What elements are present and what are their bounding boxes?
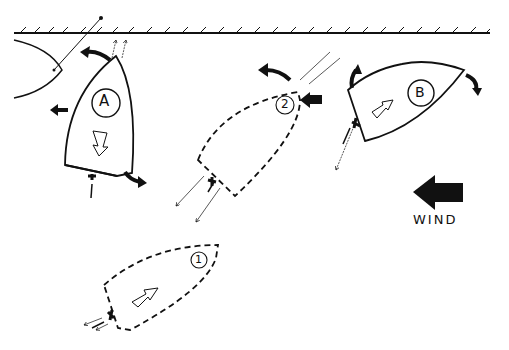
diagram-canvas xyxy=(0,0,509,350)
boat-a-label: A xyxy=(99,92,109,110)
boat-b xyxy=(336,62,482,170)
dock xyxy=(14,27,490,33)
position-1-label: 1 xyxy=(195,253,202,266)
wind-arrow-icon xyxy=(413,175,463,210)
boat-b-label: B xyxy=(415,84,425,100)
boat-position-2 xyxy=(176,52,340,222)
boat-a xyxy=(50,40,147,198)
wind-label: WIND xyxy=(413,212,457,227)
right-arrow-icon xyxy=(132,288,158,307)
position-2-label: 2 xyxy=(281,97,289,111)
